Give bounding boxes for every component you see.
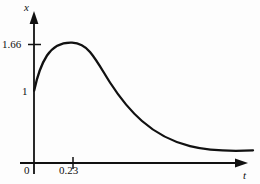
y-axis-label: x [24, 2, 29, 13]
figure-plot-area: x t 1.66 1 0 0.23 [0, 0, 260, 184]
origin-label: 0 [24, 165, 30, 176]
y-tick-label-1: 1 [22, 86, 28, 97]
x-axis-label: t [243, 170, 246, 181]
y-axis-arrowhead [30, 11, 39, 24]
plot-svg [0, 0, 260, 184]
x-tick-label-023: 0.23 [59, 165, 78, 176]
data-curve [34, 43, 253, 151]
x-axis-arrowhead [235, 159, 248, 168]
y-tick-label-166: 1.66 [2, 39, 21, 50]
